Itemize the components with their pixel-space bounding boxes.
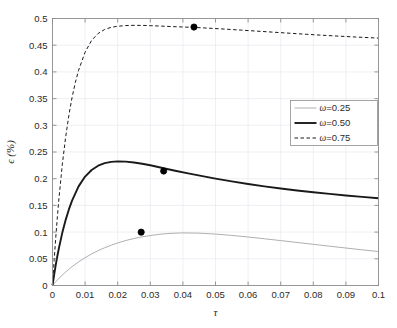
y-tick-label: 0.25 xyxy=(29,146,48,157)
x-tick-label: 0.05 xyxy=(206,289,225,300)
x-tick-label: 0.07 xyxy=(271,289,290,300)
x-tick-label: 0.01 xyxy=(76,289,95,300)
peak-marker-1 xyxy=(138,229,144,235)
legend-label-3: ω=0.75 xyxy=(320,132,351,143)
y-tick-label: 0 xyxy=(42,280,47,291)
y-tick-label: 0.2 xyxy=(34,173,47,184)
y-tick-label: 0.5 xyxy=(34,13,47,24)
grid-lines xyxy=(53,19,379,286)
x-tick-label: 0 xyxy=(50,289,55,300)
x-tick-label: 0.1 xyxy=(372,289,385,300)
y-tick-label: 0.1 xyxy=(34,227,47,238)
x-tick-label: 0.09 xyxy=(337,289,356,300)
x-tick-label: 0.06 xyxy=(239,289,258,300)
x-tick-label: 0.02 xyxy=(108,289,127,300)
y-tick-label: 0.35 xyxy=(29,93,48,104)
legend-label-1: ω=0.25 xyxy=(320,102,351,113)
x-tick-label: 0.04 xyxy=(174,289,193,300)
peak-markers xyxy=(138,24,197,235)
y-tick-label: 0.15 xyxy=(29,200,48,211)
peak-marker-2 xyxy=(161,168,167,174)
x-tick-label: 0.03 xyxy=(141,289,160,300)
legend: ω=0.25ω=0.50ω=0.75 xyxy=(291,101,378,146)
y-axis-title: ϵ (%) xyxy=(4,140,17,164)
peak-marker-3 xyxy=(191,24,197,30)
y-tick-label: 0.4 xyxy=(34,66,47,77)
x-axis-title: τ xyxy=(214,306,219,318)
line-chart: 00.010.020.030.040.050.060.070.080.090.1… xyxy=(0,0,397,328)
x-tick-label: 0.08 xyxy=(304,289,323,300)
y-tick-label: 0.3 xyxy=(34,120,47,131)
chart-figure: 00.010.020.030.040.050.060.070.080.090.1… xyxy=(0,0,397,328)
legend-label-2: ω=0.50 xyxy=(320,117,351,128)
axis-ticks: 00.010.020.030.040.050.060.070.080.090.1… xyxy=(29,13,385,300)
y-tick-label: 0.45 xyxy=(29,40,48,51)
y-tick-label: 0.05 xyxy=(29,253,48,264)
